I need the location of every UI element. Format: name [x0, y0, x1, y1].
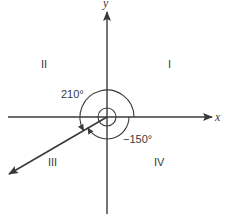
y-axis-label: y	[102, 0, 109, 10]
x-axis-label: x	[214, 110, 221, 124]
angle-label-210: 210°	[61, 88, 84, 100]
coterminal-angles-diagram: x y II I III IV 210° −150°	[0, 0, 226, 214]
angle-label-negative-150: −150°	[123, 133, 152, 145]
quadrant-label-iii: III	[48, 156, 57, 168]
quadrant-label-ii: II	[41, 58, 47, 70]
terminal-side-ray	[9, 117, 107, 174]
quadrant-label-i: I	[168, 58, 171, 70]
quadrant-label-iv: IV	[154, 156, 165, 168]
